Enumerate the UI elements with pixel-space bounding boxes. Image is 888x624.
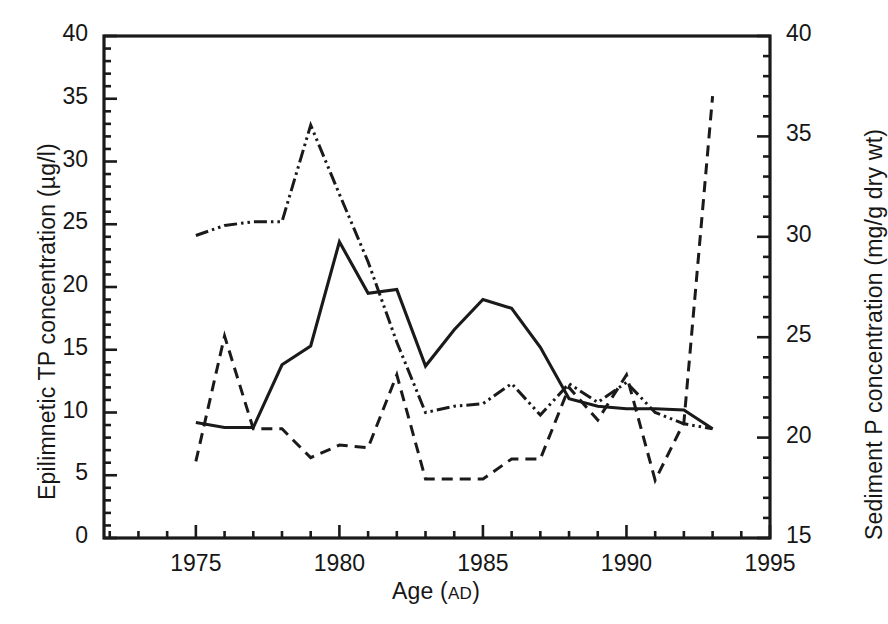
y-right-tick-label-15: 15 <box>786 522 876 549</box>
y-left-tick-label-30: 30 <box>0 146 88 173</box>
y-left-tick-label-25: 25 <box>0 208 88 235</box>
x-axis-title: Age (AD) <box>0 578 872 605</box>
y-left-tick-label-15: 15 <box>0 334 88 361</box>
x-tick-label-1985: 1985 <box>423 550 543 577</box>
x-axis-title-main: Age ( <box>392 578 448 604</box>
x-tick-label-1995: 1995 <box>710 550 830 577</box>
y-left-tick-label-5: 5 <box>0 459 88 486</box>
y-left-tick-label-0: 0 <box>0 522 88 549</box>
x-tick-label-1990: 1990 <box>566 550 686 577</box>
x-axis-title-close: ) <box>472 578 480 604</box>
y-right-tick-label-30: 30 <box>786 221 876 248</box>
y-left-tick-label-40: 40 <box>0 20 88 47</box>
y-right-tick-label-40: 40 <box>786 20 876 47</box>
y-left-tick-label-35: 35 <box>0 83 88 110</box>
y-right-tick-label-35: 35 <box>786 120 876 147</box>
y-right-tick-label-25: 25 <box>786 321 876 348</box>
y-left-tick-label-20: 20 <box>0 271 88 298</box>
y-left-tick-label-10: 10 <box>0 397 88 424</box>
x-axis-title-era: AD <box>448 584 472 603</box>
y-right-tick-label-20: 20 <box>786 422 876 449</box>
x-tick-label-1975: 1975 <box>136 550 256 577</box>
y-axis-left-title: Epilimnetic TP concentration (µg/l) <box>34 143 61 500</box>
x-tick-label-1980: 1980 <box>279 550 399 577</box>
